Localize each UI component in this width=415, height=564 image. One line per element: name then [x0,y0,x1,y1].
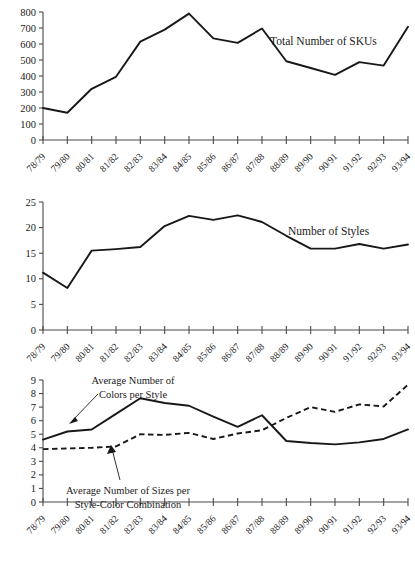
chart-panel-colors-and-sizes: 0123456789 Average Number of Colors per … [0,372,415,564]
y-axis-tick-label: 0 [31,325,36,336]
y-axis-ticks [39,12,43,140]
y-axis-tick-label: 0 [31,497,36,508]
x-axis-tick-label: 84/85 [170,512,193,535]
x-axis-tick-label: 79/80 [49,150,72,173]
y-axis-tick-label: 2 [31,469,36,480]
y-axis-tick-label: 100 [20,119,36,130]
y-axis-ticks [39,380,43,502]
x-axis-tick-label: 92/93 [365,512,388,535]
x-axis-tick-label: 83/84 [146,512,169,535]
chart-svg-number-of-styles: 0510152025 Number of Styles 78/7979/8080… [0,190,415,375]
x-axis-tick-label: 82/83 [122,512,145,535]
x-axis-tick-label: 89/90 [292,512,315,535]
x-axis-tick-label: 86/87 [219,150,242,173]
x-axis-tick-label: 83/84 [146,340,169,363]
y-axis-tick-label: 5 [31,429,36,440]
y-axis-tick-label: 7 [31,402,36,413]
x-axis-tick-label: 80/81 [73,150,96,173]
chart-panel-number-of-styles: 0510152025 Number of Styles 78/7979/8080… [0,190,415,375]
x-axis-tick-label: 87/88 [243,512,266,535]
y-axis-tick-labels: 0510152025 [26,197,37,336]
x-axis-tick-label: 88/89 [268,150,291,173]
x-axis-tick-label: 81/82 [97,340,120,363]
x-axis-tick-labels: 78/7979/8080/8181/8282/8383/8484/8585/86… [24,150,412,173]
x-axis-tick-label: 82/83 [122,340,145,363]
sizes-annotation-leader [107,445,120,480]
x-axis-tick-label: 80/81 [73,512,96,535]
y-axis-ticks [39,202,43,330]
colors-annotation-line-1: Average Number of [91,375,175,386]
x-axis-tick-labels: 78/7979/8080/8181/8282/8383/8484/8585/86… [24,340,412,363]
chart-svg-total-skus: 0100200300400500600700800 Total Number o… [0,0,415,190]
x-axis-tick-label: 78/79 [24,150,47,173]
x-axis-tick-label: 79/80 [49,340,72,363]
sizes-annotation-line-1: Average Number of Sizes per [66,485,191,496]
y-axis-tick-label: 10 [26,273,37,284]
y-axis-tick-label: 9 [31,375,36,386]
x-axis-tick-label: 89/90 [292,340,315,363]
x-axis-tick-label: 88/89 [268,512,291,535]
y-axis-tick-label: 400 [20,71,36,82]
x-axis-tick-label: 90/91 [316,512,339,535]
y-axis-tick-label: 700 [20,23,36,34]
y-axis-tick-label: 8 [31,388,36,399]
x-axis-tick-label: 92/93 [365,340,388,363]
x-axis-tick-label: 93/94 [389,150,412,173]
x-axis-tick-label: 87/88 [243,150,266,173]
data-line-total-skus [43,14,408,113]
x-axis-tick-label: 81/82 [97,512,120,535]
x-axis-tick-label: 93/94 [389,512,412,535]
x-axis-tick-label: 93/94 [389,340,412,363]
x-axis-tick-label: 84/85 [170,340,193,363]
x-axis-tick-label: 91/92 [341,150,364,173]
y-axis-tick-label: 20 [26,222,37,233]
y-axis-tick-label: 4 [31,442,37,453]
colors-annotation-line-2: Colors per Style [99,389,168,400]
y-axis-tick-label: 300 [20,87,36,98]
x-axis-tick-label: 81/82 [97,150,120,173]
x-axis-tick-label: 86/87 [219,512,242,535]
x-axis-tick-label: 78/79 [24,340,47,363]
y-axis-tick-label: 800 [20,7,36,18]
y-axis-tick-label: 1 [31,483,36,494]
three-panel-line-chart-figure: 0100200300400500600700800 Total Number o… [0,0,415,564]
y-axis-tick-label: 600 [20,39,36,50]
x-axis-tick-labels: 78/7979/8080/8181/8282/8383/8484/8585/86… [24,512,412,535]
y-axis-tick-label: 15 [26,248,37,259]
x-axis-tick-label: 89/90 [292,150,315,173]
x-axis-tick-label: 80/81 [73,340,96,363]
y-axis-tick-labels: 0123456789 [31,375,37,508]
x-axis-tick-label: 78/79 [24,512,47,535]
chart-panel-total-skus: 0100200300400500600700800 Total Number o… [0,0,415,190]
x-axis-tick-label: 79/80 [49,512,72,535]
x-axis-tick-label: 88/89 [268,340,291,363]
y-axis-tick-label: 0 [31,135,36,146]
x-axis-tick-label: 85/86 [195,150,218,173]
sizes-annotation-line-2: Style-Color Combination [75,499,182,510]
data-line-avg-colors-per-style [43,398,408,444]
x-axis-tick-label: 83/84 [146,150,169,173]
y-axis-tick-label: 5 [31,299,36,310]
x-axis-tick-label: 86/87 [219,340,242,363]
y-axis-tick-label: 200 [20,103,36,114]
y-axis-tick-label: 6 [31,415,36,426]
x-axis-tick-label: 91/92 [341,340,364,363]
colors-annotation-leader [69,394,98,424]
x-axis-tick-label: 85/86 [195,340,218,363]
x-axis-tick-label: 92/93 [365,150,388,173]
x-axis-tick-label: 84/85 [170,150,193,173]
x-axis-tick-label: 87/88 [243,340,266,363]
series-label-number-of-styles: Number of Styles [288,225,370,238]
y-axis-tick-labels: 0100200300400500600700800 [20,7,36,146]
x-axis-tick-label: 82/83 [122,150,145,173]
x-axis-tick-label: 85/86 [195,512,218,535]
y-axis-tick-label: 500 [20,55,36,66]
chart-svg-colors-and-sizes: 0123456789 Average Number of Colors per … [0,372,415,564]
x-axis-tick-label: 91/92 [341,512,364,535]
x-axis-tick-label: 90/91 [316,150,339,173]
y-axis-tick-label: 3 [31,456,36,467]
x-axis-tick-label: 90/91 [316,340,339,363]
series-label-total-skus: Total Number of SKUs [270,35,377,47]
y-axis-tick-label: 25 [26,197,37,208]
